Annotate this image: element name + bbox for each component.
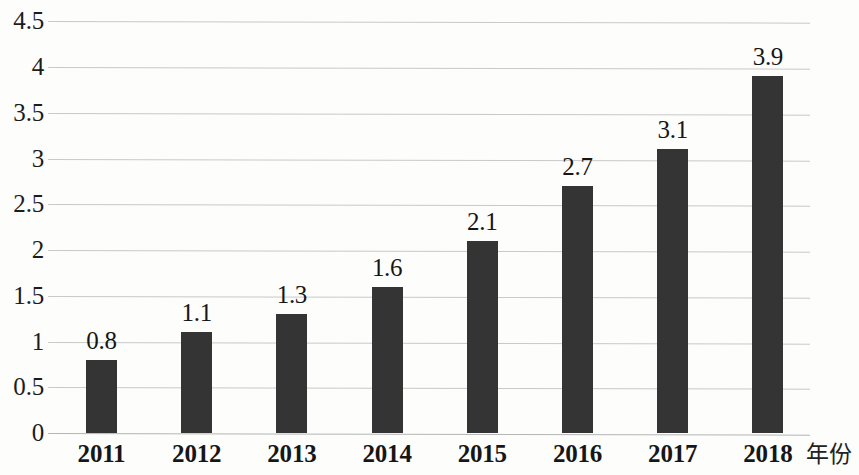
y-axis-tick-label: 3 — [0, 146, 44, 171]
bar — [657, 149, 688, 433]
bar — [276, 314, 307, 433]
x-axis-tick-label: 2011 — [57, 441, 147, 466]
y-axis-tick-label: 1.5 — [0, 283, 44, 308]
y-axis-tick-label: 2.5 — [0, 191, 44, 216]
axis-baseline — [48, 433, 810, 436]
bar — [86, 360, 117, 433]
bar-value-label: 2.1 — [447, 209, 517, 234]
x-axis-title: 年份 — [806, 443, 852, 466]
bar-value-label: 2.7 — [543, 154, 613, 179]
x-axis-tick-label: 2015 — [437, 441, 527, 466]
x-axis-tick-label: 2013 — [247, 441, 337, 466]
y-axis: 00.511.522.533.544.5 — [0, 0, 44, 475]
bar — [562, 186, 593, 433]
x-axis-tick-label: 2016 — [533, 441, 623, 466]
bar-chart: 00.511.522.533.544.5 0.81.11.31.62.12.73… — [0, 0, 859, 475]
plot-area: 0.81.11.31.62.12.73.13.9 — [48, 21, 810, 433]
y-axis-tick-label: 3.5 — [0, 100, 44, 125]
bar — [181, 332, 212, 433]
gridline — [48, 21, 810, 24]
bar — [467, 241, 498, 433]
x-axis-tick-label: 2014 — [342, 441, 432, 466]
y-axis-tick-label: 0 — [0, 420, 44, 445]
gridline — [48, 342, 810, 345]
bar-value-label: 3.1 — [638, 117, 708, 142]
bar — [372, 287, 403, 433]
x-axis-tick-label: 2017 — [628, 441, 718, 466]
gridline — [48, 113, 810, 116]
gridline — [48, 204, 810, 207]
y-axis-tick-label: 4.5 — [0, 8, 44, 33]
x-axis-tick-label: 2018 — [723, 441, 813, 466]
bar-value-label: 0.8 — [67, 328, 137, 353]
bar-value-label: 1.1 — [162, 300, 232, 325]
y-axis-tick-label: 2 — [0, 237, 44, 262]
bar-value-label: 3.9 — [733, 44, 803, 69]
bar-value-label: 1.6 — [352, 255, 422, 280]
gridline — [48, 159, 810, 162]
bar — [752, 76, 783, 433]
gridline — [48, 67, 810, 70]
y-axis-tick-label: 4 — [0, 54, 44, 79]
gridline — [48, 250, 810, 253]
bar-value-label: 1.3 — [257, 282, 327, 307]
y-axis-tick-label: 0.5 — [0, 374, 44, 399]
x-axis-tick-label: 2012 — [152, 441, 242, 466]
y-axis-tick-label: 1 — [0, 329, 44, 354]
gridline — [48, 296, 810, 299]
gridline — [48, 387, 810, 390]
